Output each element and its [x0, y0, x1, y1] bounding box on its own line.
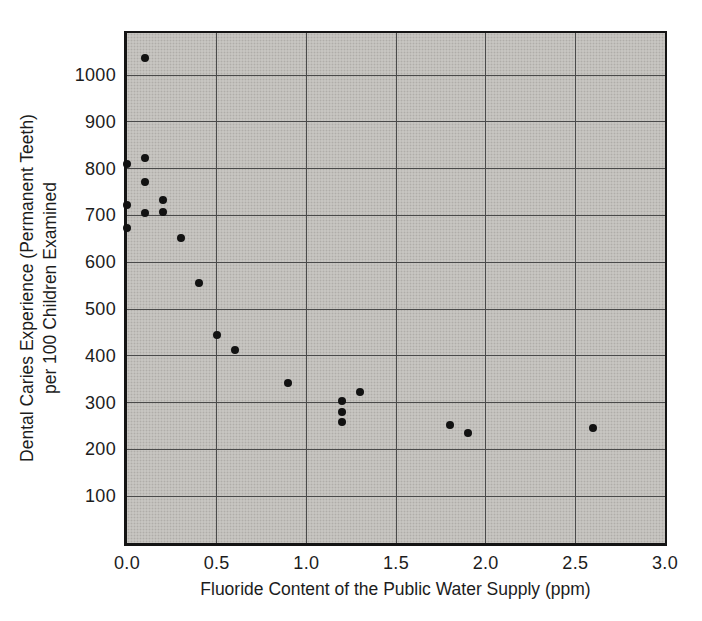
- x-tick-label: 1.5: [364, 553, 428, 573]
- data-point: [284, 379, 292, 387]
- y-tick-label: 500: [0, 299, 116, 319]
- data-point: [123, 160, 131, 168]
- data-point: [464, 429, 472, 437]
- horizontal-gridline: [127, 215, 665, 216]
- horizontal-gridline: [127, 402, 665, 403]
- vertical-gridline: [575, 33, 576, 543]
- data-point: [177, 234, 185, 242]
- x-tick-label: 2.0: [454, 553, 518, 573]
- y-tick-label: 300: [0, 393, 116, 413]
- y-tick-label: 1000: [0, 65, 116, 85]
- horizontal-gridline: [127, 75, 665, 76]
- horizontal-gridline: [127, 168, 665, 169]
- data-point: [123, 224, 131, 232]
- data-point: [338, 408, 346, 416]
- y-tick-label: 600: [0, 252, 116, 272]
- data-point: [159, 208, 167, 216]
- horizontal-gridline: [127, 496, 665, 497]
- x-tick-label: 3.0: [633, 553, 697, 573]
- horizontal-gridline: [127, 449, 665, 450]
- vertical-gridline: [485, 33, 486, 543]
- data-point: [123, 201, 131, 209]
- data-point: [231, 346, 239, 354]
- y-tick-label: 900: [0, 112, 116, 132]
- x-axis-title: Fluoride Content of the Public Water Sup…: [124, 579, 667, 599]
- vertical-gridline: [306, 33, 307, 543]
- x-tick-label: 0.0: [95, 553, 159, 573]
- data-point: [159, 196, 167, 204]
- y-tick-label: 200: [0, 439, 116, 459]
- data-point: [141, 209, 149, 217]
- data-point: [141, 178, 149, 186]
- plot-area: [124, 31, 667, 546]
- x-tick-label: 2.5: [543, 553, 607, 573]
- data-point: [213, 331, 221, 339]
- x-tick-label: 0.5: [185, 553, 249, 573]
- y-tick-label: 100: [0, 486, 116, 506]
- fluoride-caries-scatter-chart: Dental Caries Experience (Permanent Teet…: [0, 0, 702, 621]
- vertical-gridline: [396, 33, 397, 543]
- vertical-gridline: [216, 33, 217, 543]
- data-point: [141, 54, 149, 62]
- y-tick-label: 800: [0, 159, 116, 179]
- y-tick-label: 700: [0, 205, 116, 225]
- y-tick-label: 400: [0, 346, 116, 366]
- plot-background: [127, 33, 665, 543]
- horizontal-gridline: [127, 262, 665, 263]
- data-point: [589, 424, 597, 432]
- data-point: [141, 154, 149, 162]
- data-point: [446, 421, 454, 429]
- horizontal-gridline: [127, 121, 665, 122]
- data-point: [356, 388, 364, 396]
- x-tick-label: 1.0: [274, 553, 338, 573]
- horizontal-gridline: [127, 309, 665, 310]
- data-point: [338, 397, 346, 405]
- data-point: [338, 418, 346, 426]
- horizontal-gridline: [127, 355, 665, 356]
- data-point: [195, 279, 203, 287]
